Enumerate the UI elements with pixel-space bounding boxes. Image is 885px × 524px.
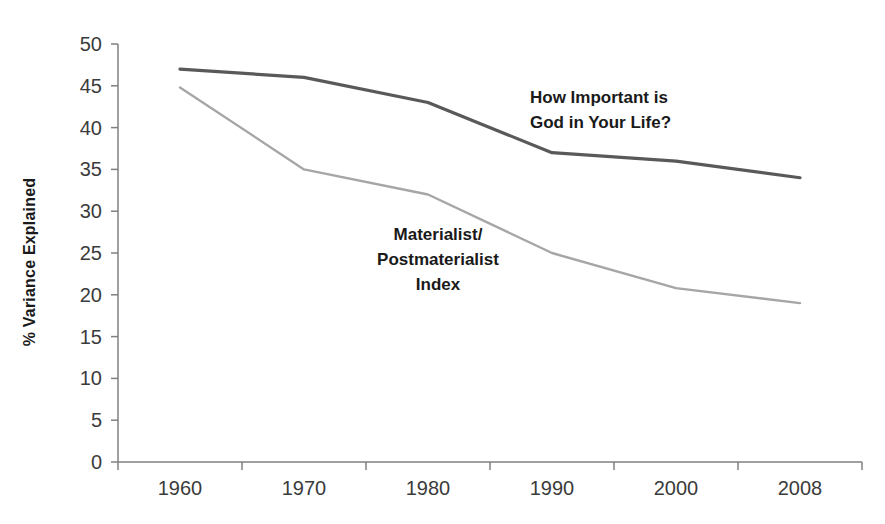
y-axis-ticks: 05101520253035404550 xyxy=(80,33,118,473)
x-tick-label: 1990 xyxy=(530,477,575,499)
x-tick-label: 1980 xyxy=(406,477,451,499)
x-axis-group: 196019701980199020002008 xyxy=(118,462,862,499)
annotation-layer: How Important isGod in Your Life?Materia… xyxy=(377,88,671,294)
annotation-line: Postmaterialist xyxy=(377,250,499,269)
annotation-line: God in Your Life? xyxy=(530,113,671,132)
series-line-2 xyxy=(180,87,800,303)
y-tick-label: 45 xyxy=(80,75,102,97)
series-line-1 xyxy=(180,69,800,178)
y-tick-label: 20 xyxy=(80,284,102,306)
annotation-line: Materialist/ xyxy=(394,225,483,244)
x-tick-label: 2000 xyxy=(654,477,699,499)
annotation-god-label: How Important isGod in Your Life? xyxy=(530,88,671,132)
x-tick-label: 1960 xyxy=(158,477,203,499)
x-tick-label: 1970 xyxy=(282,477,327,499)
y-tick-label: 30 xyxy=(80,200,102,222)
y-tick-label: 5 xyxy=(91,409,102,431)
y-tick-label: 25 xyxy=(80,242,102,264)
y-tick-label: 15 xyxy=(80,326,102,348)
y-tick-label: 0 xyxy=(91,451,102,473)
y-axis-group: 05101520253035404550 xyxy=(80,33,118,473)
annotation-line: Index xyxy=(416,275,461,294)
annotation-line: How Important is xyxy=(530,88,668,107)
annotation-materialist-label: Materialist/PostmaterialistIndex xyxy=(377,225,499,294)
chart-container: % Variance Explained 0510152025303540455… xyxy=(0,0,885,524)
y-tick-label: 35 xyxy=(80,158,102,180)
line-chart-svg: 05101520253035404550 1960197019801990200… xyxy=(0,0,885,524)
y-tick-label: 40 xyxy=(80,117,102,139)
x-tick-label: 2008 xyxy=(778,477,823,499)
x-axis-ticks: 196019701980199020002008 xyxy=(118,462,862,499)
y-tick-label: 10 xyxy=(80,367,102,389)
y-tick-label: 50 xyxy=(80,33,102,55)
